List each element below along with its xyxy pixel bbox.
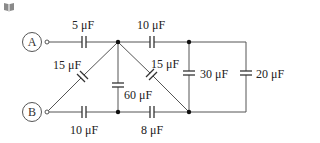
junction-node xyxy=(116,40,120,44)
junction-node xyxy=(116,110,120,114)
cap-label-15uf-left: 15 μF xyxy=(53,59,81,71)
junction-node xyxy=(187,40,191,44)
cap-label-60uf: 60 μF xyxy=(124,89,152,101)
cap-label-8uf: 8 μF xyxy=(141,124,163,136)
cap-label-30uf: 30 μF xyxy=(200,68,228,80)
terminal-b: B xyxy=(22,102,42,122)
junction-node xyxy=(187,110,191,114)
cap-label-15uf-right: 15 μF xyxy=(151,58,179,70)
cap-label-20uf: 20 μF xyxy=(256,68,284,80)
terminal-a: A xyxy=(22,32,42,52)
cap-label-10uf-top: 10 μF xyxy=(137,19,165,31)
cap-label-5uf: 5 μF xyxy=(72,19,94,31)
cap-label-10uf-bottom: 10 μF xyxy=(70,124,98,136)
